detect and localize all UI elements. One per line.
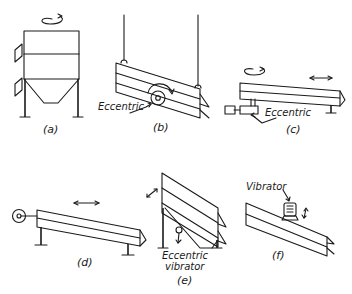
eccentric-label-e: Eccentric — [162, 250, 209, 261]
eccentric-box — [240, 106, 258, 114]
panel-d: (d) — [13, 201, 147, 269]
vibrator-label-f: Vibrator — [246, 181, 287, 192]
panel-c: Eccentric (c) — [225, 67, 345, 136]
label-d: (d) — [77, 256, 93, 269]
screen-types-diagram: (a) Eccentric (b) — [0, 0, 352, 294]
label-e: (e) — [177, 274, 192, 287]
vibrator-icon — [176, 227, 182, 233]
rotation-arrow-icon — [244, 68, 264, 75]
diagram-svg: (a) Eccentric (b) — [0, 0, 352, 294]
panel-a: (a) — [15, 14, 83, 136]
label-b: (b) — [153, 121, 169, 134]
eccentric-label-c: Eccentric — [265, 107, 312, 118]
label-a: (a) — [43, 123, 58, 136]
panel-b: Eccentric (b) — [98, 15, 209, 134]
eccentric-label-b: Eccentric — [98, 101, 145, 112]
vibrator-label-e: vibrator — [165, 261, 205, 272]
panel-f: Vibrator (f) — [246, 181, 334, 262]
motion-arrow-icon — [147, 189, 157, 197]
panel-e: Eccentric vibrator (e) — [147, 173, 226, 287]
label-f: (f) — [272, 249, 284, 262]
label-c: (c) — [286, 123, 301, 136]
